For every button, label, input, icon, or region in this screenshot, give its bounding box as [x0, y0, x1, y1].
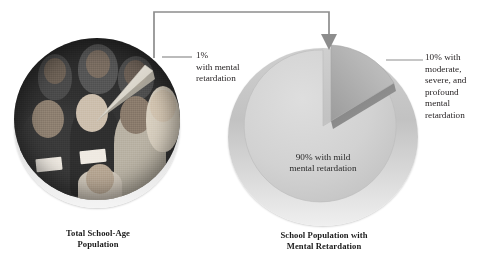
callout-one-percent: 1% with mental retardation [196, 50, 266, 85]
callout-ten-percent-line6: retardation [425, 110, 484, 122]
caption-left-line2: Population [8, 239, 188, 250]
callout-one-percent-line1: 1% [196, 50, 266, 62]
callout-ten-percent-line5: mental [425, 98, 484, 110]
callout-ten-percent-line4: profound [425, 87, 484, 99]
figure-canvas: 90% with mild mental retardation 1% with… [0, 0, 484, 269]
callout-ten-percent-line1: 10% with [425, 52, 484, 64]
caption-left: Total School-Age Population [8, 228, 188, 249]
callout-ten-percent-line3: severe, and [425, 75, 484, 87]
arrowhead-icon [321, 34, 337, 50]
callout-one-percent-line2: with mental [196, 62, 266, 74]
callout-ten-percent: 10% with moderate, severe, and profound … [425, 52, 484, 122]
caption-left-line1: Total School-Age [8, 228, 188, 239]
caption-right-line1: School Population with [238, 230, 410, 241]
caption-right: School Population with Mental Retardatio… [238, 230, 410, 251]
caption-right-line2: Mental Retardation [238, 241, 410, 252]
callout-one-percent-line3: retardation [196, 73, 266, 85]
callout-ten-percent-line2: moderate, [425, 64, 484, 76]
